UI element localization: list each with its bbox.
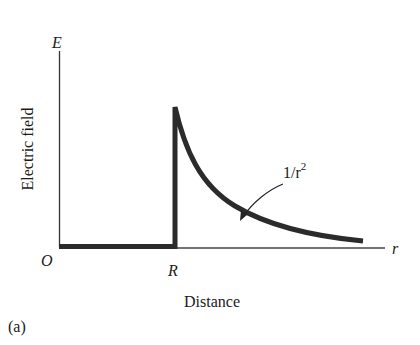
radius-tick-label: R	[168, 262, 178, 280]
curve-annotation-exponent: 2	[301, 160, 307, 172]
x-axis-label: Distance	[184, 293, 240, 311]
x-axis-symbol: r	[392, 240, 398, 258]
origin-label: O	[41, 252, 53, 270]
y-axis-label: Electric field	[19, 89, 37, 209]
panel-label: (a)	[8, 318, 26, 336]
curve-annotation: 1/r2	[283, 162, 306, 182]
field-curve	[59, 107, 363, 247]
y-axis-symbol: E	[52, 34, 62, 52]
curve-annotation-base: 1/r	[283, 164, 301, 181]
